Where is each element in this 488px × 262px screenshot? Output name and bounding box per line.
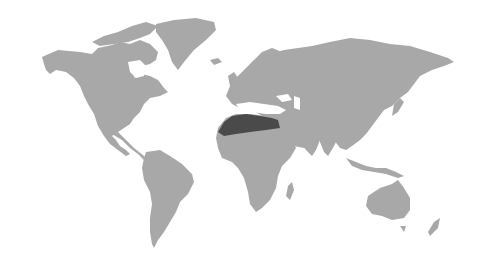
southeast-asia-islands bbox=[346, 158, 404, 178]
continent-australia bbox=[366, 180, 410, 220]
world-map: World map with highlighted region bbox=[0, 0, 488, 262]
new-zealand bbox=[428, 218, 440, 236]
greenland bbox=[156, 18, 216, 70]
british-isles bbox=[228, 72, 238, 86]
continent-north-america bbox=[42, 40, 168, 156]
iceland bbox=[210, 58, 222, 65]
world-map-svg bbox=[0, 0, 488, 262]
caspian-sea bbox=[294, 96, 300, 110]
madagascar bbox=[286, 182, 294, 200]
india bbox=[316, 126, 340, 156]
arctic-islands bbox=[92, 22, 158, 46]
continent-south-america bbox=[142, 150, 194, 248]
tasmania bbox=[400, 226, 406, 232]
